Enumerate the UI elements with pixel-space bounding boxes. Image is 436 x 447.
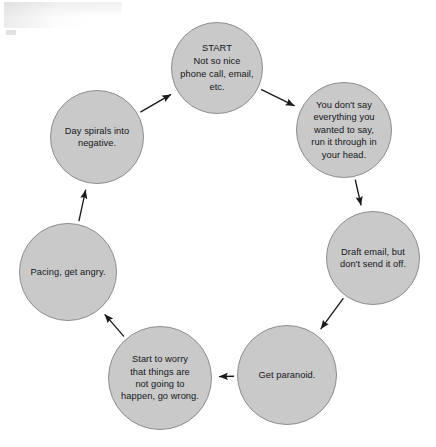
edge-start-to-hold-back [261, 90, 294, 106]
node-start[interactable]: START Not so nice phone call, email, etc… [171, 22, 263, 114]
node-day-spirals-label: Day spirals into negative. [53, 125, 141, 150]
node-start-to-worry-label: Start to worry that things are not going… [111, 353, 209, 403]
edge-pacing-to-day-spirals [79, 190, 86, 220]
node-hold-back-label: You don't say everything you wanted to s… [299, 99, 389, 161]
node-start-to-worry[interactable]: Start to worry that things are not going… [108, 326, 212, 430]
node-hold-back[interactable]: You don't say everything you wanted to s… [296, 82, 392, 178]
node-pacing[interactable]: Pacing, get angry. [19, 223, 117, 321]
node-pacing-label: Pacing, get angry. [22, 266, 114, 278]
edge-day-spirals-to-start [141, 95, 171, 112]
node-get-paranoid-label: Get paranoid. [240, 369, 334, 381]
node-start-label: START Not so nice phone call, email, etc… [174, 42, 261, 94]
cycle-diagram: START Not so nice phone call, email, etc… [0, 0, 436, 447]
edge-hold-back-to-draft-email [355, 180, 361, 205]
node-draft-email-label: Draft email, but don't send it off. [329, 246, 417, 271]
edge-worry-to-pacing [105, 315, 124, 336]
node-get-paranoid[interactable]: Get paranoid. [237, 325, 337, 425]
edge-draft-email-to-paranoid [321, 299, 343, 329]
node-draft-email[interactable]: Draft email, but don't send it off. [326, 211, 420, 305]
node-day-spirals[interactable]: Day spirals into negative. [50, 90, 144, 184]
